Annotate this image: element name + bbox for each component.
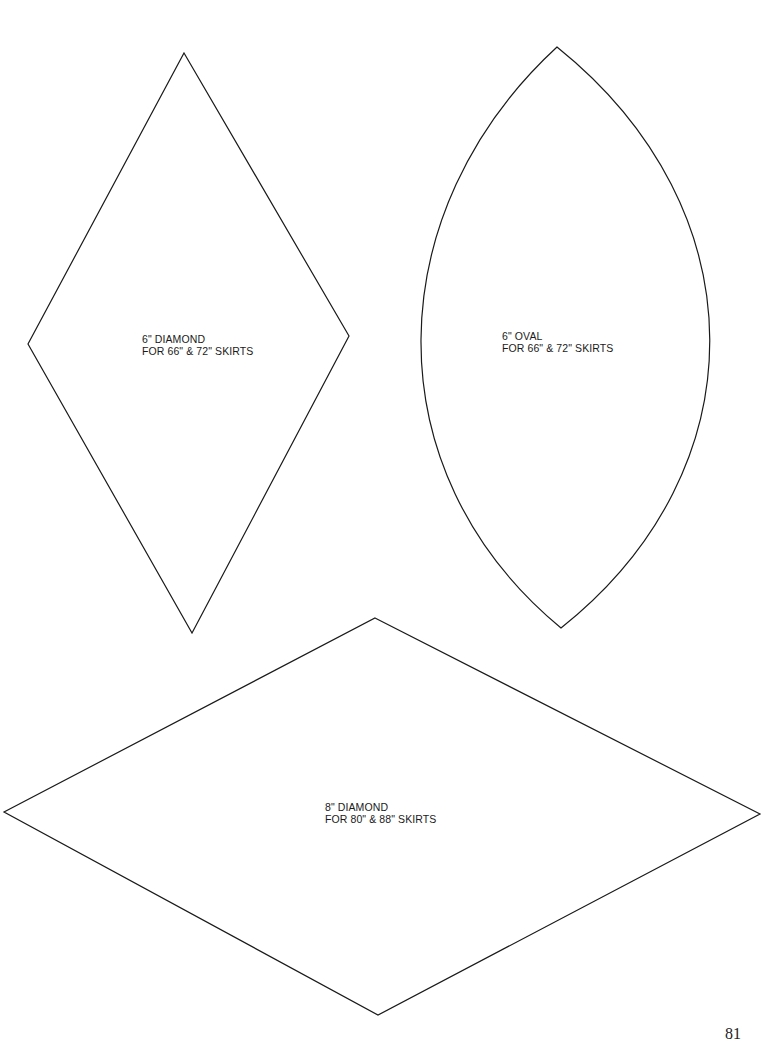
diamond-8-label: 8" DIAMOND FOR 80" & 88" SKIRTS: [325, 801, 436, 825]
oval-6-title: 6" OVAL: [502, 330, 613, 342]
diamond-8-title: 8" DIAMOND: [325, 801, 436, 813]
oval-6-subtitle: FOR 66" & 72" SKIRTS: [502, 342, 613, 354]
page-number: 81: [725, 1025, 741, 1043]
diamond-6-subtitle: FOR 66" & 72" SKIRTS: [142, 345, 253, 357]
pattern-templates-canvas: [0, 0, 778, 1064]
diamond-6-title: 6" DIAMOND: [142, 333, 253, 345]
oval-6-label: 6" OVAL FOR 66" & 72" SKIRTS: [502, 330, 613, 354]
diamond-6-label: 6" DIAMOND FOR 66" & 72" SKIRTS: [142, 333, 253, 357]
diamond-8-subtitle: FOR 80" & 88" SKIRTS: [325, 813, 436, 825]
